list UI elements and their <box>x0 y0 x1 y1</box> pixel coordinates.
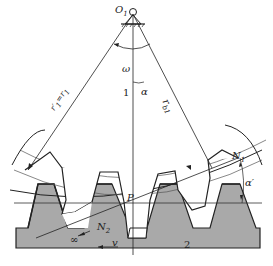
label-alpha-prime: α′ <box>245 178 254 188</box>
pitch-radius-line <box>28 14 133 170</box>
label-rack-2: 2 <box>184 240 190 250</box>
gear-rack-diagram: O1 ω 1 α rb1 r′1=r1 P N1 α′ N2 ∞ v 2 <box>0 0 273 266</box>
omega-arrow <box>114 44 150 49</box>
label-velocity: v <box>112 238 118 248</box>
label-o1: O1 <box>115 5 128 18</box>
label-gear-1: 1 <box>123 88 129 98</box>
label-infinity: ∞ <box>70 235 78 245</box>
label-pitch-point: P <box>127 193 134 203</box>
diagram-drawing <box>0 0 273 266</box>
label-omega: ω <box>122 64 130 74</box>
label-alpha: α <box>141 87 148 97</box>
label-n2: N2 <box>97 222 110 235</box>
label-n1: N1 <box>232 151 245 164</box>
